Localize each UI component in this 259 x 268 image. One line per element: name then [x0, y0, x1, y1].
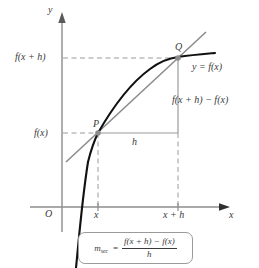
formula-box: msec = f(x + h) − f(x) h [78, 232, 193, 264]
y-axis-arrowhead [58, 12, 65, 23]
formula-content: msec = f(x + h) − f(x) h [79, 233, 192, 263]
y-tick-label-fxh: f(x + h) [15, 52, 46, 62]
point-P-label: P [93, 119, 99, 129]
y-axis-label: y [48, 5, 52, 15]
point-Q-marker [175, 55, 181, 61]
formula-equals: = [112, 243, 119, 253]
formula-denominator: h [147, 249, 152, 259]
secant-line-figure: y x O f(x + h) f(x) x x + h P Q y = f(x)… [0, 0, 259, 268]
run-label-h: h [132, 137, 137, 147]
point-P-marker [95, 130, 101, 136]
origin-label: O [45, 209, 52, 219]
curve-label: y = f(x) [192, 62, 222, 72]
formula-lhs-subscript: sec [101, 248, 108, 254]
x-tick-label-x: x [94, 210, 98, 220]
x-tick-label-xh: x + h [163, 210, 184, 220]
x-axis-label: x [229, 210, 233, 220]
y-tick-label-fx: f(x) [34, 128, 48, 138]
x-axis [30, 203, 230, 210]
formula-numerator: f(x + h) − f(x) [122, 237, 177, 247]
point-Q-label: Q [175, 42, 182, 52]
formula-lhs: msec [94, 243, 109, 254]
y-axis [58, 12, 65, 232]
rise-label: f(x + h) − f(x) [172, 95, 228, 105]
formula-fraction: f(x + h) − f(x) h [122, 237, 177, 259]
